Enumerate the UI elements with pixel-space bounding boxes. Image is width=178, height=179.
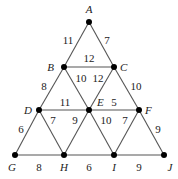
nodes-layer [12, 19, 167, 158]
node-label-f: F [144, 104, 152, 116]
node-label-d: D [23, 104, 32, 116]
edge-weight-f-i: 7 [122, 114, 128, 126]
node-d [36, 107, 42, 113]
node-label-e: E [96, 96, 104, 108]
edge-weight-f-j: 9 [155, 123, 161, 135]
node-c [111, 64, 117, 70]
node-label-c: C [120, 61, 128, 73]
edge-weight-e-h: 9 [72, 114, 78, 126]
edge-weight-a-c: 7 [104, 34, 110, 46]
edge-weights-layer: 1171281012101156791079869 [18, 34, 161, 173]
node-i [111, 152, 117, 158]
edge-weight-b-c: 12 [84, 52, 95, 64]
node-j [161, 152, 167, 158]
edge-weight-a-b: 11 [63, 34, 74, 46]
edge-weight-b-e: 10 [76, 72, 88, 84]
node-f [136, 107, 142, 113]
edge-weight-e-i: 10 [101, 114, 113, 126]
node-b [61, 64, 67, 70]
node-label-a: A [85, 3, 93, 15]
edge-weight-d-g: 6 [18, 123, 24, 135]
node-label-h: H [59, 161, 69, 173]
edge-weight-h-i: 6 [86, 161, 92, 173]
node-labels-layer: ABCDEFGHIJ [8, 3, 174, 173]
node-label-b: B [47, 61, 54, 73]
node-e [86, 107, 92, 113]
edge-weight-b-d: 8 [41, 80, 47, 92]
edge-weight-c-e: 12 [93, 72, 104, 84]
node-g [12, 152, 18, 158]
node-label-g: G [8, 161, 16, 173]
weighted-graph-diagram: 1171281012101156791079869 ABCDEFGHIJ [0, 0, 178, 179]
edge-weight-g-h: 8 [36, 161, 42, 173]
node-a [86, 19, 92, 25]
edge-weight-c-f: 10 [131, 80, 143, 92]
edges-layer [15, 22, 164, 155]
edge-weight-d-h: 7 [50, 114, 56, 126]
node-h [61, 152, 67, 158]
edge-weight-i-j: 9 [136, 161, 142, 173]
edge-weight-e-f: 5 [111, 96, 117, 108]
node-label-j: J [168, 161, 174, 173]
node-label-i: I [111, 161, 117, 173]
edge-weight-d-e: 11 [60, 96, 71, 108]
